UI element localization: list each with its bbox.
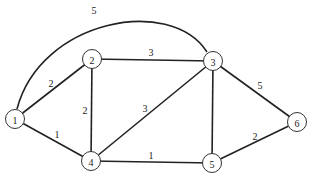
edge-1-2 [15, 59, 92, 119]
weight-3-6: 5 [258, 80, 263, 91]
weight-2-4: 2 [83, 105, 88, 116]
weight-1-3: 5 [92, 5, 97, 16]
graph-diagram: 5 2 1 3 2 3 5 1 2 1 2 3 4 5 6 [0, 0, 315, 179]
node-4: 4 [82, 152, 101, 171]
node-1: 1 [6, 110, 25, 129]
node-2-label: 2 [90, 55, 95, 66]
node-6-label: 6 [295, 118, 300, 129]
node-3: 3 [204, 52, 223, 71]
edge-3-5 [212, 61, 213, 163]
edge-2-4 [91, 59, 92, 161]
edge-3-6 [213, 61, 297, 122]
edge-5-6 [212, 122, 297, 163]
edge-4-5 [91, 161, 212, 163]
weight-4-5: 1 [149, 150, 154, 161]
weight-3-4: 3 [143, 103, 148, 114]
node-4-label: 4 [89, 157, 94, 168]
node-3-label: 3 [211, 57, 216, 68]
weight-1-4: 1 [55, 129, 60, 140]
weight-2-3: 3 [149, 47, 154, 58]
node-5: 5 [203, 154, 222, 173]
node-2: 2 [83, 50, 102, 69]
node-1-label: 1 [13, 115, 18, 126]
weight-5-6: 2 [253, 131, 258, 142]
graph-canvas: 5 2 1 3 2 3 5 1 2 1 2 3 4 5 6 [0, 0, 315, 179]
edge-3-4 [91, 61, 213, 161]
node-5-label: 5 [210, 159, 215, 170]
node-6: 6 [288, 113, 307, 132]
weight-1-2: 2 [49, 78, 54, 89]
edge-1-4 [15, 119, 91, 161]
edge-2-3 [92, 59, 213, 61]
